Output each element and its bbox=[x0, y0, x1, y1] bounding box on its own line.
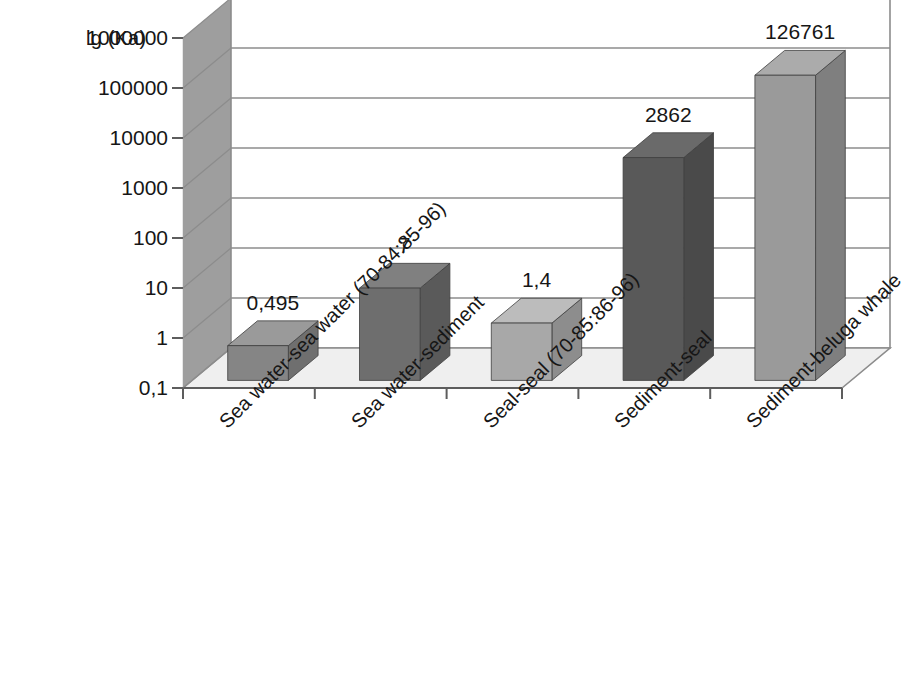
y-axis-tick-mark bbox=[172, 387, 183, 389]
y-axis-tick-label: 10 bbox=[145, 276, 168, 300]
y-axis-tick-labels: 10000001000001000010001001010,1 bbox=[0, 0, 168, 679]
y-axis-tick-label: 1 bbox=[156, 326, 168, 350]
bar-front-face-3 bbox=[623, 158, 684, 381]
y-axis-tick-label: 100000 bbox=[98, 76, 168, 100]
y-axis-tick-mark bbox=[172, 287, 183, 289]
y-axis-tick-label: 1000000 bbox=[86, 26, 168, 50]
y-axis-tick-mark bbox=[172, 187, 183, 189]
left-side-wall bbox=[183, 0, 231, 388]
y-axis-tick-mark bbox=[172, 137, 183, 139]
bar-value-label: 1,4 bbox=[522, 268, 551, 292]
bar-chart: lg (Ka) 10000001000001000010001001010,1 … bbox=[0, 0, 917, 679]
y-axis-tick-mark bbox=[172, 87, 183, 89]
bar-value-label: 0,495 bbox=[247, 291, 300, 315]
y-axis-tick-mark bbox=[172, 37, 183, 39]
y-axis-tick-label: 100 bbox=[133, 226, 168, 250]
bar-value-label: 2862 bbox=[645, 103, 692, 127]
y-axis-tick-mark bbox=[172, 337, 183, 339]
bar-front-face-4 bbox=[755, 75, 816, 380]
y-axis-tick-label: 10000 bbox=[110, 126, 168, 150]
bar-value-label: 126761 bbox=[765, 20, 835, 44]
y-axis-tick-label: 1000 bbox=[121, 176, 168, 200]
y-axis-tick-label: 0,1 bbox=[139, 376, 168, 400]
y-axis-tick-mark bbox=[172, 237, 183, 239]
